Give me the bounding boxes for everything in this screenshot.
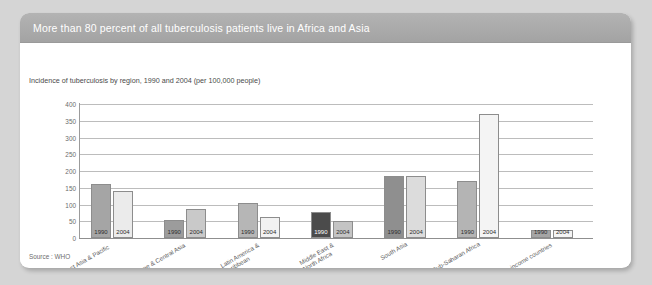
y-axis-tick-label: 200 — [65, 168, 76, 175]
y-axis-tick-label: 150 — [65, 184, 76, 191]
bar-value-label: 1990 — [534, 229, 547, 237]
bar-value-label: 2004 — [116, 229, 129, 237]
source-note: Source : WHO — [29, 253, 70, 260]
bar-group: 19902004 — [457, 104, 501, 238]
x-axis-line — [79, 238, 593, 239]
x-axis-label: High-income countries — [496, 241, 553, 268]
chart-bars: 1990200419902004199020041990200419902004… — [80, 104, 593, 238]
bar-value-label: 1990 — [168, 229, 181, 237]
y-axis-tick-label: 0 — [72, 235, 76, 242]
bar-group: 19902004 — [384, 104, 428, 238]
x-axis-label: Sub-Saharan Africa — [431, 241, 481, 268]
y-axis-tick-labels: 050100150200250300350400 — [54, 104, 76, 238]
bar-1990: 1990 — [457, 181, 477, 238]
bar-2004: 2004 — [333, 221, 353, 238]
chart-card: More than 80 percent of all tuberculosis… — [20, 13, 631, 268]
bar-1990: 1990 — [531, 230, 551, 239]
y-axis-tick-label: 50 — [69, 218, 76, 225]
bar-1990: 1990 — [238, 203, 258, 238]
bar-value-label: 2004 — [556, 229, 569, 237]
x-axis-label: Europe & Central Asia — [130, 242, 186, 268]
bar-2004: 2004 — [406, 176, 426, 238]
bar-2004: 2004 — [186, 209, 206, 238]
bar-value-label: 2004 — [190, 229, 203, 237]
y-axis-tick-label: 400 — [65, 101, 76, 108]
bar-1990: 1990 — [311, 212, 331, 238]
bar-group: 19902004 — [91, 104, 135, 238]
bar-2004: 2004 — [553, 230, 573, 239]
bar-value-label: 2004 — [483, 229, 496, 237]
y-axis-tick-label: 350 — [65, 117, 76, 124]
x-axis-label: Latin America &Caribbean — [219, 241, 264, 268]
card-body: Incidence of tuberculosis by region, 199… — [20, 43, 631, 267]
bar-value-label: 1990 — [94, 229, 107, 237]
bar-group: 19902004 — [238, 104, 282, 238]
x-axis-label: Middle East &North Africa — [298, 241, 338, 268]
y-axis-tick-label: 100 — [65, 201, 76, 208]
bar-group: 19902004 — [531, 104, 575, 238]
bar-value-label: 1990 — [314, 229, 327, 237]
bar-1990: 1990 — [164, 220, 184, 238]
bar-2004: 2004 — [479, 114, 499, 238]
bar-group: 19902004 — [311, 104, 355, 238]
x-axis-label: South Asia — [379, 240, 408, 261]
bar-1990: 1990 — [384, 176, 404, 238]
bar-value-label: 2004 — [409, 229, 422, 237]
chart-plot-area: 050100150200250300350400 199020041990200… — [20, 43, 631, 267]
bar-1990: 1990 — [91, 184, 111, 238]
bar-value-label: 1990 — [387, 229, 400, 237]
x-axis-category-labels: East Asia & PacificEurope & Central Asia… — [80, 240, 620, 268]
bar-2004: 2004 — [113, 191, 133, 238]
bar-value-label: 1990 — [461, 229, 474, 237]
page-title: More than 80 percent of all tuberculosis… — [33, 22, 370, 34]
card-header: More than 80 percent of all tuberculosis… — [20, 13, 631, 43]
y-axis-tick-label: 300 — [65, 134, 76, 141]
bar-value-label: 1990 — [241, 229, 254, 237]
bar-value-label: 2004 — [263, 229, 276, 237]
bar-group: 19902004 — [164, 104, 208, 238]
y-axis-tick-label: 250 — [65, 151, 76, 158]
bar-value-label: 2004 — [336, 229, 349, 237]
bar-2004: 2004 — [260, 217, 280, 238]
